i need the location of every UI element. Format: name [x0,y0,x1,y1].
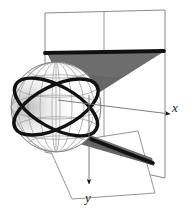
cone-upper-edge [45,51,164,53]
figure-svg: x y [0,0,191,217]
figure-container: x y [0,0,191,217]
y-axis-label: y [83,190,91,205]
x-axis-label: x [171,100,178,115]
